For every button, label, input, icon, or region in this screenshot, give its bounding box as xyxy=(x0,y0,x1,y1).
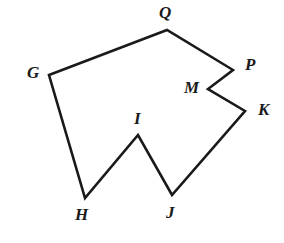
polygon-shape xyxy=(0,0,284,243)
vertex-label-M: M xyxy=(184,79,199,96)
vertex-label-P: P xyxy=(245,56,255,73)
vertex-label-I: I xyxy=(134,110,141,127)
vertex-label-Q: Q xyxy=(159,4,171,21)
polygon-outline-path xyxy=(49,30,245,198)
vertex-label-J: J xyxy=(166,204,175,221)
vertex-label-G: G xyxy=(27,64,39,81)
polygon-figure: G Q P M K J I H xyxy=(0,0,284,243)
vertex-label-H: H xyxy=(75,206,88,223)
vertex-label-K: K xyxy=(258,101,269,118)
